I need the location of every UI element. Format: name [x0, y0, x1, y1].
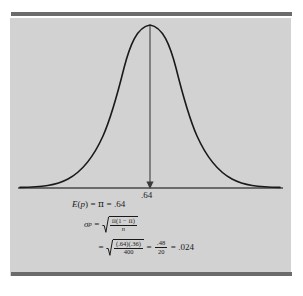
fraction-computed-variance: (.64)(.36)400 — [113, 241, 144, 256]
normal-curve-svg — [10, 18, 291, 198]
figure-normal-distribution: .64 E(p)=π=.64 σp=π(1 − π)n =(.64)(.36)4… — [0, 0, 303, 296]
formula-equals-4: = — [96, 242, 106, 252]
radical-sign-1 — [102, 216, 109, 233]
fraction-denominator-400: 400 — [114, 248, 143, 256]
fraction-denominator-n: n — [110, 225, 137, 233]
radical-sign-2 — [106, 239, 113, 256]
fraction-variance: π(1 − π)n — [109, 218, 138, 233]
fraction-numerator-48: .48 — [155, 240, 167, 247]
numerator-open: (1 − — [116, 217, 128, 224]
formula-standard-error-computed: =(.64)(.36)400=.4820=.024 — [96, 239, 194, 256]
fraction-numerator-variance: π(1 − π) — [110, 218, 137, 225]
formula-equals-5: = — [144, 242, 154, 252]
formula-equals-3: = — [92, 219, 102, 229]
formula-equals-6: = — [168, 242, 178, 252]
radical-group-2: (.64)(.36)400 — [106, 239, 144, 256]
radical-content-1: π(1 − π)n — [109, 216, 138, 233]
top-rule — [11, 12, 292, 16]
formula-equals-1: = — [88, 199, 98, 209]
formula-standard-error: σp=π(1 − π)n — [84, 216, 138, 233]
formula-expected-value-result: .64 — [114, 199, 125, 209]
fraction-simplified: .4820 — [154, 240, 168, 255]
formula-sigma-group: σp — [84, 220, 92, 229]
formula-equals-2: = — [104, 199, 114, 209]
bottom-rule — [11, 272, 292, 276]
fraction-denominator-20: 20 — [155, 247, 167, 255]
formula-block: E(p)=π=.64 σp=π(1 − π)n =(.64)(.36)400=.… — [10, 196, 291, 268]
formula-expected-value: E(p)=π=.64 — [72, 200, 125, 209]
radical-content-2: (.64)(.36)400 — [113, 239, 144, 256]
numerator-close: ) — [133, 217, 135, 224]
formula-standard-error-result: .024 — [178, 242, 194, 252]
radical-group-1: π(1 − π)n — [102, 216, 138, 233]
plot-area: .64 — [10, 18, 291, 198]
fraction-numerator-values: (.64)(.36) — [114, 241, 143, 248]
